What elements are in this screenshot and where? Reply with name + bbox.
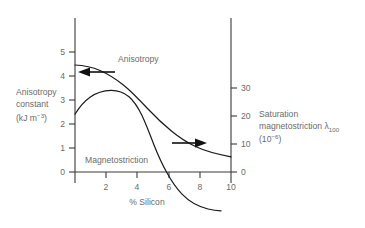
left-tick-label-2: 2 [60, 119, 65, 129]
x-tick-label-4: 4 [135, 182, 140, 192]
right-tick-label-10: 10 [241, 139, 251, 149]
lambda-subscript: 100 [329, 126, 340, 133]
right-axis-title-line3: (10−6) [259, 133, 281, 144]
right-tick-label-30: 30 [241, 83, 251, 93]
left-unit-prefix: (kJ m [16, 113, 37, 123]
chart-background [0, 0, 365, 228]
right-axis-title-line1: Saturation [259, 109, 298, 119]
left-tick-label-4: 4 [60, 71, 65, 81]
right-title-prefix: magnetostriction [259, 121, 324, 131]
x-tick-label-8: 8 [198, 182, 203, 192]
right-axis-title-line2: magnetostriction λ100 [259, 121, 340, 133]
x-tick-label-6: 6 [167, 182, 172, 192]
magnetostriction-label: Magnetostriction [85, 155, 148, 165]
left-tick-label-5: 5 [60, 47, 65, 57]
left-tick-label-1: 1 [60, 143, 65, 153]
x-tick-label-2: 2 [104, 182, 109, 192]
x-tick-label-10: 10 [226, 182, 236, 192]
left-unit-suffix: ) [44, 113, 47, 123]
right-tick-label-0: 0 [241, 167, 246, 177]
left-axis-title-line2: constant [16, 99, 49, 109]
left-tick-label-0: 0 [60, 167, 65, 177]
anisotropy-label: Anisotropy [118, 54, 159, 64]
left-axis-title-line1: Anisotropy [16, 87, 57, 97]
x-axis-title: % Silicon [129, 197, 165, 207]
left-tick-label-3: 3 [60, 95, 65, 105]
chart-figure: 0 1 2 3 4 5 Anisotropy constant (kJ m−3)… [0, 0, 365, 228]
right-tick-label-20: 20 [241, 111, 251, 121]
right-unit-suffix: ) [278, 134, 281, 144]
right-unit-prefix: (10 [259, 134, 272, 144]
